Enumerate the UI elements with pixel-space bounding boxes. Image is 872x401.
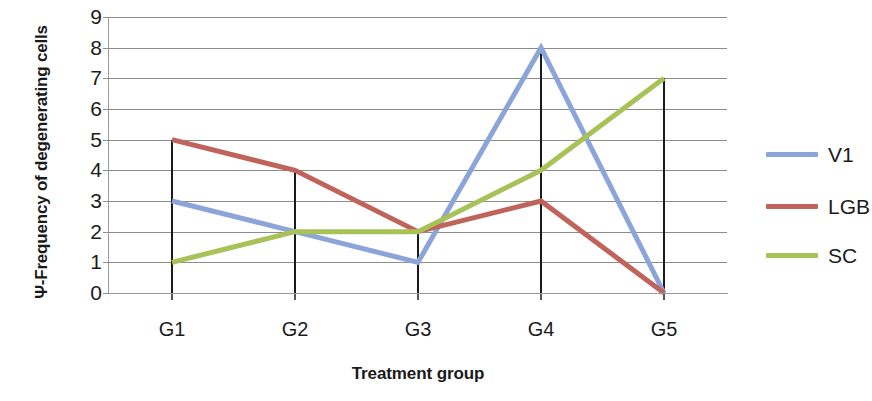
x-tick-mark bbox=[663, 294, 665, 300]
x-axis-title: Treatment group bbox=[108, 364, 728, 384]
y-axis-title: Ψ-Frequency of degenerating cells bbox=[32, 12, 52, 312]
plot-area bbox=[108, 17, 727, 293]
y-tick-label: 7 bbox=[66, 67, 102, 88]
y-tick-label: 8 bbox=[66, 37, 102, 58]
y-tick-label: 1 bbox=[66, 251, 102, 272]
x-tick-mark bbox=[294, 294, 296, 300]
x-tick-label-g5: G5 bbox=[624, 318, 704, 341]
y-tick-label: 2 bbox=[66, 221, 102, 242]
legend-item-sc[interactable]: SC bbox=[766, 243, 857, 267]
x-tick-label-g3: G3 bbox=[378, 318, 458, 341]
y-tick-label: 4 bbox=[66, 159, 102, 180]
series-line-lgb bbox=[172, 140, 664, 293]
series-line-v1 bbox=[172, 48, 664, 293]
line-chart: Ψ-Frequency of degenerating cells 012345… bbox=[0, 0, 872, 401]
legend-label: SC bbox=[828, 245, 857, 266]
legend-label: V1 bbox=[828, 144, 854, 165]
legend-label: LGB bbox=[828, 196, 870, 217]
x-tick-mark bbox=[171, 294, 173, 300]
x-tick-label-g2: G2 bbox=[255, 318, 335, 341]
y-axis-tick-labels: 0123456789 bbox=[62, 0, 102, 401]
x-tick-mark bbox=[540, 294, 542, 300]
x-tick-label-g4: G4 bbox=[501, 318, 581, 341]
x-tick-label-g1: G1 bbox=[132, 318, 212, 341]
series-lines bbox=[108, 17, 727, 294]
legend-swatch-lgb bbox=[766, 204, 818, 209]
y-tick-label: 5 bbox=[66, 129, 102, 150]
y-tick-label: 3 bbox=[66, 190, 102, 211]
x-tick-mark bbox=[417, 294, 419, 300]
y-tick-label: 0 bbox=[66, 282, 102, 303]
legend-swatch-sc bbox=[766, 253, 818, 258]
y-tick-label: 6 bbox=[66, 98, 102, 119]
y-tick-label: 9 bbox=[66, 6, 102, 27]
legend-item-lgb[interactable]: LGB bbox=[766, 194, 870, 218]
legend-swatch-v1 bbox=[766, 152, 818, 157]
legend-item-v1[interactable]: V1 bbox=[766, 142, 854, 166]
